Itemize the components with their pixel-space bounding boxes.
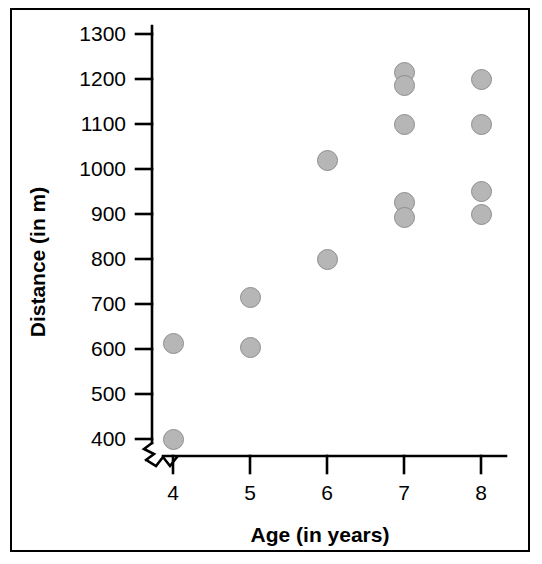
data-point <box>471 204 492 225</box>
x-tick-label-5: 5 <box>230 482 270 503</box>
data-point <box>394 114 415 135</box>
data-point <box>471 181 492 202</box>
data-point <box>240 337 261 358</box>
y-tick-label-800: 800 <box>40 248 126 269</box>
y-tick-label-900: 900 <box>40 203 126 224</box>
y-axis-break-zigzag <box>144 443 154 460</box>
data-point <box>163 333 184 354</box>
x-axis-break-zigzag <box>148 457 177 466</box>
y-tick-label-600: 600 <box>40 338 126 359</box>
x-tick-label-8: 8 <box>461 482 501 503</box>
scatter-plot: 4005006007008009001000110012001300 45678… <box>0 0 542 564</box>
data-point <box>240 287 261 308</box>
data-point <box>471 114 492 135</box>
x-tick-label-4: 4 <box>153 482 193 503</box>
data-point <box>163 429 184 450</box>
y-tick-label-400: 400 <box>40 428 126 449</box>
x-axis-title: Age (in years) <box>190 523 450 547</box>
y-tick-label-500: 500 <box>40 383 126 404</box>
x-tick-label-7: 7 <box>384 482 424 503</box>
y-tick-label-1300: 1300 <box>40 23 126 44</box>
y-tick-label-1000: 1000 <box>40 158 126 179</box>
data-point <box>394 75 415 96</box>
data-point <box>317 150 338 171</box>
y-axis-title: Distance (in m) <box>26 162 50 362</box>
y-tick-label-1200: 1200 <box>40 68 126 89</box>
y-tick-label-1100: 1100 <box>40 113 126 134</box>
x-tick-label-6: 6 <box>307 482 347 503</box>
data-point <box>471 69 492 90</box>
data-point <box>317 249 338 270</box>
y-tick-label-700: 700 <box>40 293 126 314</box>
data-point <box>394 207 415 228</box>
